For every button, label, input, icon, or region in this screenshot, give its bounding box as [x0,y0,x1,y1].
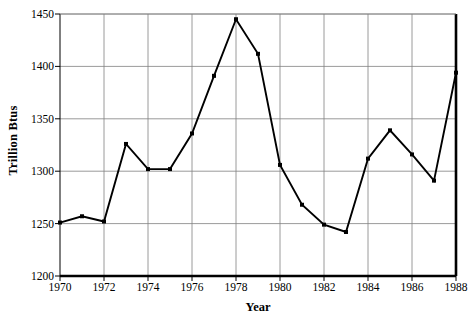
data-line [60,19,456,232]
plot-area [0,0,475,329]
tick-marks [55,14,456,281]
line-chart: Trillion Btus 1200 1250 1300 1350 1400 1… [0,0,475,329]
data-point-markers [58,17,458,234]
